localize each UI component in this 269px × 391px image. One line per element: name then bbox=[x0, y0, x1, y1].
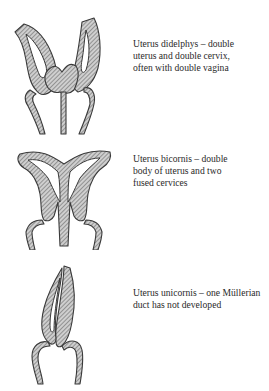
uterus-bicornis-illustration bbox=[0, 142, 130, 250]
caption-line: often with double vagina bbox=[133, 62, 268, 74]
caption-line: Uterus didelphys – double bbox=[133, 38, 268, 50]
caption-didelphys: Uterus didelphys – double uterus and dou… bbox=[133, 38, 268, 75]
caption-bicornis: Uterus bicornis – double body of uterus … bbox=[133, 153, 268, 190]
caption-line: body of uterus and two bbox=[133, 165, 268, 177]
caption-unicornis: Uterus unicornis – one Müllerian duct ha… bbox=[133, 287, 268, 311]
uterus-unicornis-illustration bbox=[0, 262, 130, 387]
caption-line: uterus and double cervix, bbox=[133, 50, 268, 62]
caption-line: fused cervices bbox=[133, 177, 268, 189]
caption-line: Uterus bicornis – double bbox=[133, 153, 268, 165]
caption-line: Uterus unicornis – one Müllerian bbox=[133, 287, 268, 299]
uterus-didelphys-illustration bbox=[0, 10, 130, 135]
caption-line: duct has not developed bbox=[133, 299, 268, 311]
